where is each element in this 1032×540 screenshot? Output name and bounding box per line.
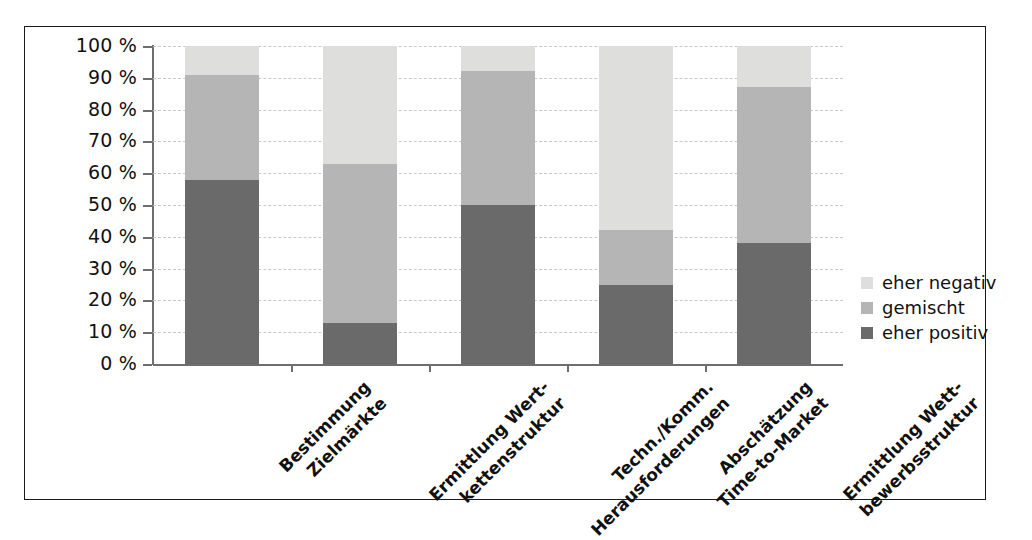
bar-segment (737, 87, 811, 243)
y-axis-tick-label: 20 % (25, 288, 137, 310)
y-axis-labels: 0 %10 %20 %30 %40 %50 %60 %70 %80 %90 %1… (25, 45, 137, 365)
bar-segment (599, 46, 673, 230)
x-axis-labels: BestimmungZielmärkteErmittlung Wert-kett… (153, 372, 873, 502)
chart-legend: eher negativgemischteher positiv (861, 270, 1011, 345)
chart-frame: 0 %10 %20 %30 %40 %50 %60 %70 %80 %90 %1… (24, 26, 986, 500)
y-axis-tick-mark (143, 300, 152, 302)
y-axis-tick-label: 80 % (25, 98, 137, 120)
stacked-bar (737, 46, 811, 364)
legend-item: gemischt (861, 295, 1011, 320)
bar-segment (323, 164, 397, 323)
x-axis-category-label: BestimmungZielmärkte (274, 376, 392, 494)
bar-segment (737, 46, 811, 87)
y-axis-tick-label: 70 % (25, 129, 137, 151)
legend-item-label: eher negativ (882, 272, 996, 293)
bar-segment (461, 71, 535, 205)
bar-segment (185, 75, 259, 180)
stacked-bar (461, 46, 535, 364)
x-axis-category-label: Techn./Komm.Herausforderungen (569, 376, 734, 540)
bar-segment (599, 285, 673, 365)
x-axis-tick-mark (705, 365, 707, 372)
legend-color-swatch (861, 277, 873, 289)
legend-item-label: eher positiv (882, 322, 988, 343)
y-axis-tick-label: 60 % (25, 161, 137, 183)
legend-item: eher negativ (861, 270, 1011, 295)
legend-item-label: gemischt (882, 297, 965, 318)
axis-baseline (153, 364, 843, 366)
stacked-bar (323, 46, 397, 364)
y-axis-tick-mark (143, 173, 152, 175)
y-axis-tick-mark (143, 364, 152, 366)
legend-item: eher positiv (861, 320, 1011, 345)
x-axis-tick-mark (567, 365, 569, 372)
y-axis-tick-label: 30 % (25, 257, 137, 279)
bar-segment (323, 46, 397, 164)
bar-segment (323, 323, 397, 364)
y-axis-tick-mark (143, 141, 152, 143)
bar-segment (185, 180, 259, 364)
y-axis-tick-label: 0 % (25, 352, 137, 374)
y-axis-tick-mark (143, 110, 152, 112)
x-axis-tick-mark (429, 365, 431, 372)
y-axis-tick-label: 90 % (25, 66, 137, 88)
plot-area (153, 46, 843, 364)
x-axis-category-label: Ermittlung Wett-bewerbsstruktur (838, 376, 984, 522)
y-axis-tick-mark (143, 205, 152, 207)
y-axis-tick-label: 100 % (25, 34, 137, 56)
x-axis-tick-mark (291, 365, 293, 372)
stacked-bar (599, 46, 673, 364)
y-axis-tick-label: 50 % (25, 193, 137, 215)
stacked-bar (185, 46, 259, 364)
bar-segment (461, 205, 535, 364)
legend-color-swatch (861, 302, 873, 314)
bar-segment (185, 46, 259, 75)
y-axis-tick-mark (143, 237, 152, 239)
y-axis-tick-mark (143, 332, 152, 334)
legend-color-swatch (861, 327, 873, 339)
y-axis-tick-mark (143, 78, 152, 80)
y-axis-tick-mark (143, 269, 152, 271)
bar-segment (737, 243, 811, 364)
bar-segment (599, 230, 673, 284)
y-axis-tick-label: 10 % (25, 320, 137, 342)
y-axis-tick-label: 40 % (25, 225, 137, 247)
x-axis-category-label: Ermittlung Wert-kettenstruktur (424, 376, 570, 522)
bar-segment (461, 46, 535, 71)
y-axis-tick-mark (143, 46, 152, 48)
